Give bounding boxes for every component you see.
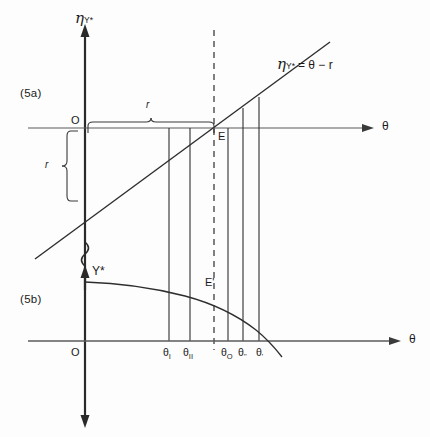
panel-a-equation-line [35,42,330,259]
line-equation-eta: η [277,55,286,73]
eta-symbol: η [75,9,84,27]
line-equation-rest: = θ − r [298,58,333,72]
panel-b-horizontal-axis-label: θ [409,333,416,345]
panel-tag-5b: (5b) [20,294,42,306]
panel-a-horizontal-axis-label: θ [382,120,389,132]
tick-sub: ' [262,352,263,361]
figure-vector-graphics [0,0,430,437]
tick-sub: II [189,352,193,361]
equilibrium-point-E-prime: E' [205,277,214,288]
panel-a-horizontal-brace [88,118,214,133]
panel-b-origin-label: O [71,347,80,358]
tick-label-theta-I: θI [163,347,171,361]
tick-label-theta-II: θII [183,347,193,361]
tick-sub: '' [244,352,247,361]
vertical-brace-label: r [45,160,48,170]
line-equation-subscript: Y* [286,61,295,71]
horizontal-brace-label: r [146,100,149,110]
tick-label-theta-prime: θ' [256,347,263,361]
tick-sub: O [227,352,233,361]
panel-a-vertical-axis-label: ηY* [75,10,93,26]
panel-a-origin-label: O [71,115,80,126]
panel-a-vertical-brace [62,131,78,201]
tick-sub: I [169,352,171,361]
tick-label-theta-O: θO [221,347,233,361]
panel-b-vertical-axis-label: Y* [92,265,105,277]
eta-subscript: Y* [84,15,93,25]
tick-label-theta-double-prime: θ'' [238,347,247,361]
equilibrium-point-E: E [218,131,225,142]
line-equation-label: ηY*= θ − r [277,57,333,72]
panel-b-vertical-axis [81,265,90,428]
panel-tag-5a: (5a) [20,88,42,100]
figure-container: (5a) ηY* O θ r r E ηY*= θ − r (5b) Y* O … [0,0,430,437]
